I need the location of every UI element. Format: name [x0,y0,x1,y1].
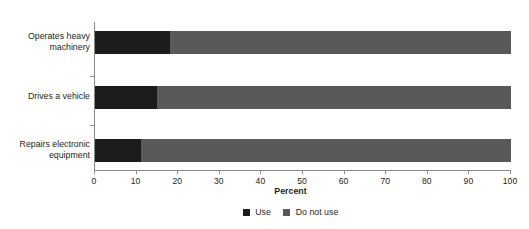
x-axis-tick-label: 60 [339,176,349,186]
x-axis-tick [427,170,428,174]
category-label-line: Operates heavy [0,31,90,42]
bar-segment-use [95,31,170,54]
legend-items: Use Do not use [238,207,344,217]
chart-legend: Use Do not use [0,207,529,217]
x-axis-tick-label: 0 [92,176,97,186]
x-axis-tick-label: 20 [172,176,182,186]
legend-item-use[interactable]: Use [243,207,271,217]
x-axis-tick [94,170,95,174]
legend-swatch-icon [283,209,290,216]
x-axis-title-wrapper: Percent [0,186,529,196]
x-axis-tick-label: 30 [214,176,224,186]
bar-segment-do-not-use [157,86,511,109]
x-axis-tick-label: 80 [422,176,432,186]
x-axis-tick [219,170,220,174]
x-axis-tick [385,170,386,174]
x-axis-tick-label: 10 [131,176,141,186]
plot-area: 0 10 20 30 40 50 60 70 80 90 100 [94,22,510,170]
category-label-operates-heavy-machinery: Operates heavy machinery [0,31,90,53]
category-label-line: machinery [0,42,90,53]
y-axis-tick [90,76,94,77]
x-axis-tick [136,170,137,174]
x-axis-tick-label: 50 [297,176,307,186]
bar-segment-do-not-use [141,139,511,162]
legend-item-do-not-use[interactable]: Do not use [283,207,338,217]
category-label-repairs-electronic-equipment: Repairs electronic equipment [0,139,90,161]
legend-swatch-icon [243,209,250,216]
x-axis-tick [260,170,261,174]
category-label-line: equipment [0,150,90,161]
legend-item-label: Do not use [296,207,339,217]
category-label-line: Drives a vehicle [0,91,90,102]
x-axis-tick [510,170,511,174]
x-axis-tick-label: 100 [503,176,517,186]
category-label-line: Repairs electronic [0,139,90,150]
category-label-drives-a-vehicle: Drives a vehicle [0,91,90,102]
x-axis-tick [302,170,303,174]
chart-container: Figure 2. Use of electronic devices amon… [0,0,529,229]
x-axis-tick [344,170,345,174]
bar-segment-use [95,86,157,109]
bar-segment-do-not-use [170,31,511,54]
x-axis-tick-label: 70 [380,176,390,186]
legend-item-label: Use [255,207,271,217]
x-axis-tick-label: 40 [256,176,266,186]
y-axis-tick [90,125,94,126]
x-axis-title: Percent [274,186,306,196]
bar-segment-use [95,139,141,162]
x-axis-tick [177,170,178,174]
x-axis-tick [468,170,469,174]
x-axis-tick-label: 90 [464,176,474,186]
